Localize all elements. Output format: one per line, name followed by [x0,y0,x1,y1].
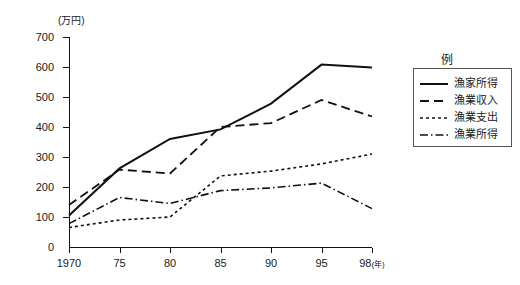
series-line-dashed [69,100,372,205]
legend-item-4: 漁業所得 [419,126,506,143]
legend-item-3: 漁業支出 [419,109,506,126]
series-line-dashdot [69,183,372,224]
legend-line-swatch-dashdot [419,129,449,141]
chart-figure: (万円) 0100200300400500600700 197075808590… [0,0,520,285]
legend-item-2: 漁業収入 [419,92,506,109]
legend-item-label: 漁業支出 [454,112,498,123]
legend-item-label: 漁家所得 [454,78,498,89]
legend-line-swatch-solid [419,78,449,90]
legend-item-1: 漁家所得 [419,75,506,92]
legend-title: 例 [441,50,453,67]
legend-line-swatch-dashed [419,95,449,107]
legend-item-label: 漁業収入 [454,95,498,106]
series-line-solid [69,65,372,216]
legend-line-swatch-dotted [419,112,449,124]
legend-box: 漁家所得漁業収入漁業支出漁業所得 [413,68,512,147]
legend-item-label: 漁業所得 [454,129,498,140]
